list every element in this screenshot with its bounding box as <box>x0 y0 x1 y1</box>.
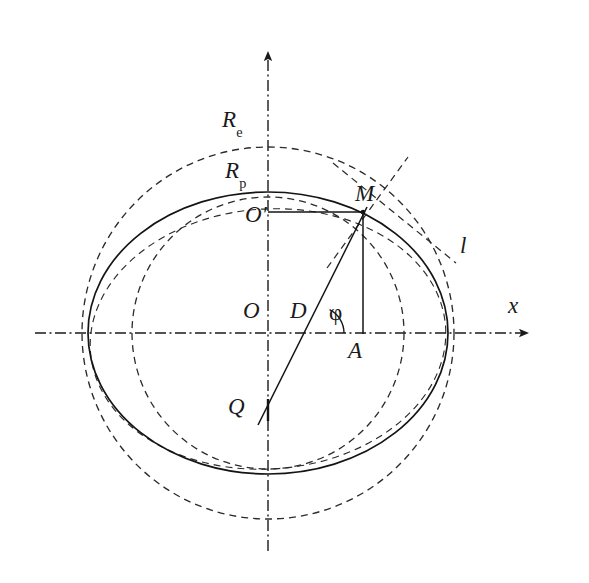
auxiliary-dashed-ellipse <box>81 197 454 481</box>
label-point-d: D <box>290 299 307 322</box>
figure-root: Re Rp O′ M l O D φ A Q x <box>0 0 589 583</box>
label-point-a: A <box>348 339 362 362</box>
point-marker-m <box>361 210 366 215</box>
label-point-m: M <box>355 182 374 205</box>
label-latitude-angle: φ <box>329 301 342 324</box>
label-point-q: Q <box>228 395 245 418</box>
axes-group <box>35 52 528 551</box>
diagram-canvas <box>0 0 589 583</box>
label-auxiliary-center: O′ <box>245 203 267 226</box>
segment-q-to-m <box>258 207 367 425</box>
tangent-line-l-dashed <box>333 163 456 263</box>
label-equatorial-radius: Re <box>222 108 242 135</box>
label-origin: O <box>243 299 260 322</box>
label-x-axis: x <box>508 294 518 317</box>
label-polar-radius: Rp <box>225 159 246 186</box>
label-tangent-line: l <box>460 234 466 257</box>
